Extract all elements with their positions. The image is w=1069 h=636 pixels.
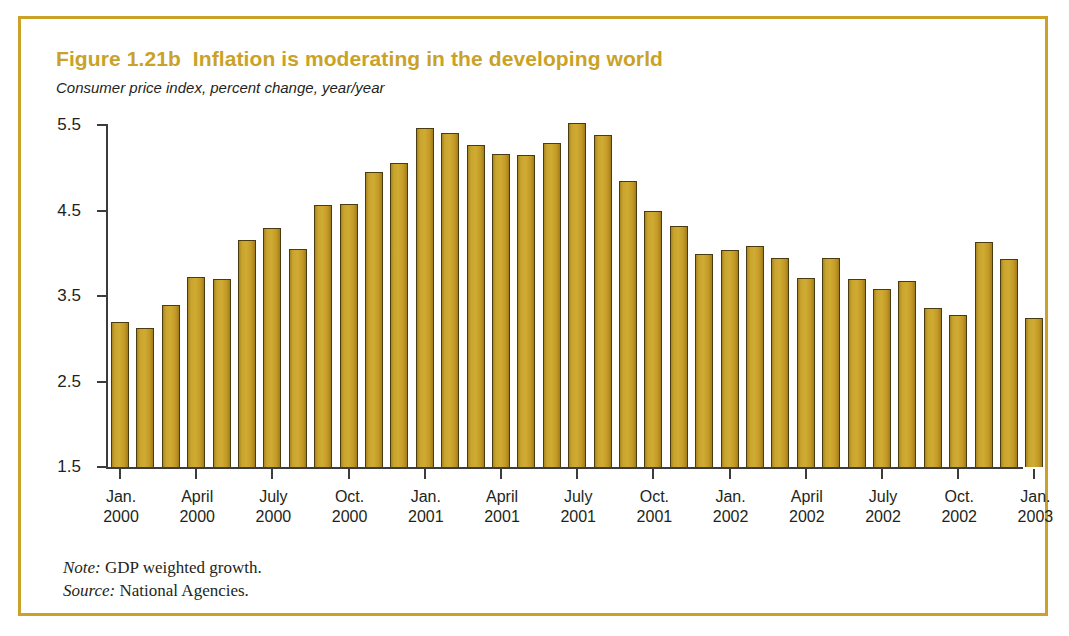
x-axis-tick-label: April 2000 [157, 487, 237, 527]
bar [771, 258, 789, 467]
x-axis-line [106, 467, 1023, 469]
bar [822, 258, 840, 467]
source-text: National Agencies. [115, 581, 249, 600]
bar [492, 154, 510, 467]
y-axis-tick-label: 2.5 [41, 373, 81, 390]
bar [873, 289, 891, 467]
bar [949, 315, 967, 467]
bar [1025, 318, 1043, 467]
x-axis-tick [500, 469, 502, 479]
bar [111, 322, 129, 467]
x-axis-tick [424, 469, 426, 479]
bar [721, 250, 739, 467]
bar [187, 277, 205, 467]
bar [568, 123, 586, 467]
x-axis-tick [576, 469, 578, 479]
x-axis-tick-label: Oct. 2000 [310, 487, 390, 527]
figure-title: Figure 1.21b Inflation is moderating in … [56, 47, 663, 71]
bar [390, 163, 408, 467]
source-label: Source: [63, 581, 115, 600]
bar [695, 254, 713, 467]
bar [619, 181, 637, 467]
x-axis-tick [957, 469, 959, 479]
x-axis-tick-label: July 2000 [233, 487, 313, 527]
bar [543, 143, 561, 467]
bar [898, 281, 916, 467]
bar [416, 128, 434, 467]
x-axis-tick-label: Jan. 2003 [995, 487, 1069, 527]
bar [797, 278, 815, 467]
bar [467, 145, 485, 467]
x-axis-tick [881, 469, 883, 479]
bar [975, 242, 993, 467]
figure-subtitle: Consumer price index, percent change, ye… [56, 79, 385, 96]
y-axis-tick [97, 381, 108, 383]
y-axis-tick-label: 1.5 [41, 458, 81, 475]
bar [136, 328, 154, 467]
bar [289, 249, 307, 467]
bar [848, 279, 866, 467]
x-axis-tick [119, 469, 121, 479]
bar [365, 172, 383, 467]
x-axis-tick [729, 469, 731, 479]
note-text: GDP weighted growth. [101, 558, 262, 577]
x-axis-tick-label: July 2001 [538, 487, 618, 527]
bar [238, 240, 256, 467]
x-axis-tick [348, 469, 350, 479]
x-axis-tick [271, 469, 273, 479]
bar [162, 305, 180, 467]
chart-plot-area: 1.52.53.54.55.5 Jan. 2000April 2000July … [81, 115, 1031, 475]
bar [517, 155, 535, 467]
bar [670, 226, 688, 467]
bar [1000, 259, 1018, 467]
x-axis-tick-label: Jan. 2002 [691, 487, 771, 527]
figure-frame: Figure 1.21b Inflation is moderating in … [18, 16, 1048, 616]
x-axis-tick [195, 469, 197, 479]
figure-notes: Note: GDP weighted growth. Source: Natio… [63, 557, 262, 603]
x-axis-tick-label: April 2001 [462, 487, 542, 527]
bar [644, 211, 662, 468]
x-axis-tick-label: Jan. 2001 [386, 487, 466, 527]
bar [314, 205, 332, 467]
bar [746, 246, 764, 467]
x-axis-tick-label: July 2002 [843, 487, 923, 527]
y-axis-tick-label: 3.5 [41, 287, 81, 304]
y-axis-tick [97, 210, 108, 212]
bar [213, 279, 231, 467]
bar [441, 133, 459, 467]
y-axis-tick-label: 5.5 [41, 116, 81, 133]
x-axis-tick-label: Jan. 2000 [81, 487, 161, 527]
y-axis-tick [97, 124, 108, 126]
bar [924, 308, 942, 467]
y-axis-tick [97, 295, 108, 297]
bar [594, 135, 612, 467]
x-axis-tick-label: Oct. 2002 [919, 487, 999, 527]
x-axis-tick [1033, 469, 1035, 479]
x-axis-tick [652, 469, 654, 479]
note-line: Note: GDP weighted growth. [63, 557, 262, 580]
bar [340, 204, 358, 467]
x-axis-tick-label: Oct. 2001 [614, 487, 694, 527]
source-line: Source: National Agencies. [63, 580, 262, 603]
x-axis-tick [805, 469, 807, 479]
note-label: Note: [63, 558, 101, 577]
bar [263, 228, 281, 467]
y-axis-tick [97, 466, 108, 468]
y-axis-tick-label: 4.5 [41, 202, 81, 219]
x-axis-tick-label: April 2002 [767, 487, 847, 527]
